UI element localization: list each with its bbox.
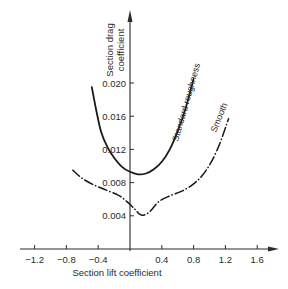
y-axis-title-line2: coefficient — [115, 28, 126, 71]
x-tick-label: −0.4 — [89, 254, 108, 265]
x-tick-label: −1.2 — [25, 254, 44, 265]
y-axis-title-line1: Section drag — [104, 23, 115, 76]
x-tick-label: −0.8 — [57, 254, 76, 265]
x-tick-label: 1.2 — [219, 254, 232, 265]
x-tick-label: 0.8 — [187, 254, 200, 265]
y-tick-label: 0.016 — [102, 111, 126, 122]
y-tick-label: 0.020 — [102, 78, 126, 89]
smooth-label: Smooth — [209, 101, 230, 134]
x-axis-title: Section lift coefficient — [72, 267, 161, 278]
x-tick-label: 1.6 — [251, 254, 264, 265]
x-tick-label: 0.4 — [155, 254, 168, 265]
y-axis — [128, 10, 135, 251]
series-curves — [73, 79, 229, 215]
standard-roughness-label: Standard roughness — [170, 61, 202, 142]
smooth-curve — [73, 119, 229, 216]
x-tick-labels: −1.2−0.8−0.40.40.81.21.6 — [25, 254, 264, 265]
y-tick-label: 0.004 — [102, 210, 126, 221]
y-axis-arrow-icon — [128, 10, 133, 22]
x-axis-arrow-icon — [268, 247, 279, 252]
drag-polar-chart: −1.2−0.8−0.40.40.81.21.6 0.0040.0080.012… — [0, 0, 288, 289]
y-tick-label: 0.008 — [102, 177, 126, 188]
x-axis — [20, 245, 279, 252]
y-tick-labels: 0.0040.0080.0120.0160.020 — [102, 78, 126, 222]
